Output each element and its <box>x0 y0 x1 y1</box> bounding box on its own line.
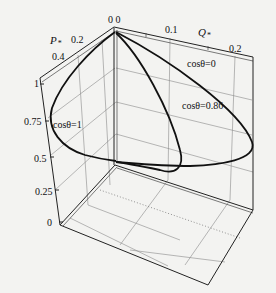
z-gridline <box>55 134 116 190</box>
q-tick-0.2: 0.2 <box>229 43 242 54</box>
p-axis-label: P* <box>49 34 62 48</box>
annotation-cos086: cosθ=0.86 <box>182 100 223 111</box>
q-wall-grid <box>116 38 253 200</box>
z-tick-1: 1 <box>34 78 39 89</box>
floor-gridline <box>88 205 180 240</box>
q-tick-0.1: 0.1 <box>165 24 178 35</box>
z-tick-0.5: 0.5 <box>34 153 47 164</box>
p-axis-letter: P <box>49 34 57 46</box>
z-axis-line <box>40 78 60 225</box>
floor-gridline <box>185 200 230 265</box>
annotation-cos1: cosθ=1 <box>53 119 82 130</box>
p-gridline <box>78 55 88 205</box>
floor-dotted-line <box>100 190 240 238</box>
series-cos086-curve <box>116 33 181 172</box>
bottom-right-back-edge-inner <box>117 168 253 213</box>
q-gridline <box>230 56 235 200</box>
q-axis-letter: Q <box>198 26 206 38</box>
q-axis-subscript: * <box>207 31 211 40</box>
floor-gridline <box>70 218 168 266</box>
p-axis-subscript: * <box>58 39 62 48</box>
floor-gridline <box>120 180 168 245</box>
floor-grid <box>70 180 240 266</box>
bottom-left-back-edge <box>60 165 115 225</box>
annotation-cos0: cosθ=0 <box>187 58 216 69</box>
box-edges <box>40 27 253 285</box>
z-tick-0.25: 0.25 <box>35 186 53 197</box>
q-axis-label: Q* <box>198 26 211 40</box>
bottom-right-back-edge <box>115 165 253 210</box>
pv-3d-chart: 0 0 0.2 0.4 0.1 0.2 1 0.75 0.5 0.25 0 P*… <box>0 0 276 293</box>
origin-tick-label: 0 0 <box>108 14 121 25</box>
bottom-left-back-edge-inner <box>63 167 117 226</box>
p-tick-0.2: 0.2 <box>71 34 84 45</box>
z-tick-0: 0 <box>47 217 52 228</box>
p-tick-0.4: 0.4 <box>52 51 65 62</box>
floor-front-right-edge <box>208 210 253 285</box>
floor-gridline <box>130 250 225 262</box>
z-tick-0.75: 0.75 <box>24 116 42 127</box>
q-gridline <box>168 38 170 180</box>
floor-front-left-edge <box>60 225 208 285</box>
